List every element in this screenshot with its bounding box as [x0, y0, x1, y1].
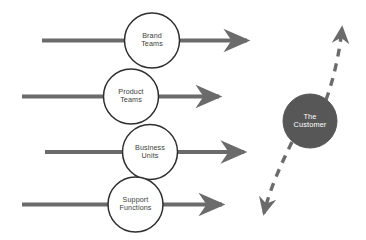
- node-circle-brand-teams[interactable]: [125, 13, 180, 68]
- node-circle-the-customer[interactable]: [283, 94, 337, 148]
- flow-row-business-units: [45, 125, 244, 180]
- flow-row-brand-teams: [42, 13, 247, 68]
- diagram-canvas: Brand Teams Product Teams Business Units…: [0, 0, 366, 240]
- diagram-graphics: [0, 0, 366, 240]
- dashed-arrow-down: [264, 142, 292, 213]
- flow-row-product-teams: [22, 69, 219, 124]
- node-circle-support-functions[interactable]: [108, 177, 163, 232]
- node-circle-business-units[interactable]: [123, 125, 178, 180]
- flow-row-support-functions: [22, 177, 222, 232]
- dashed-arrow-up: [326, 28, 342, 100]
- node-circle-product-teams[interactable]: [104, 69, 159, 124]
